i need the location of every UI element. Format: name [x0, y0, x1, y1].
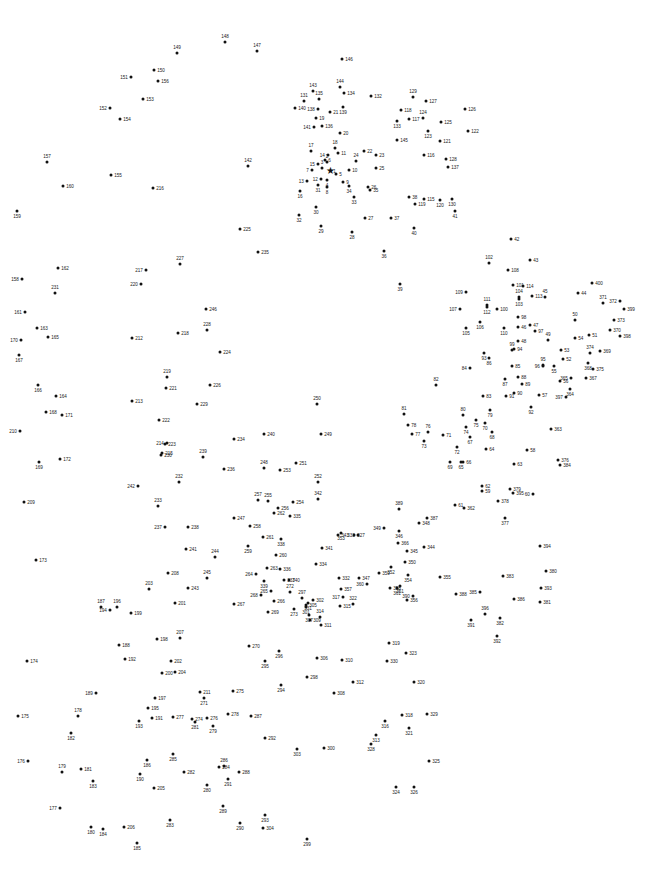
dot-number-label: 260	[279, 553, 287, 558]
puzzle-dot	[351, 231, 354, 234]
puzzle-dot	[227, 778, 230, 781]
dot-number-label: 7	[306, 168, 309, 173]
puzzle-dot	[454, 504, 457, 507]
puzzle-dot	[333, 692, 336, 695]
puzzle-dot	[130, 76, 133, 79]
dot-number-label: 136	[325, 124, 333, 129]
puzzle-dot	[532, 493, 535, 496]
dot-number-label: 47	[533, 323, 538, 328]
puzzle-dot	[176, 52, 179, 55]
puzzle-dot	[427, 431, 430, 434]
puzzle-dot	[327, 154, 330, 157]
puzzle-dot	[320, 225, 323, 228]
dot-number-label: 249	[324, 432, 332, 437]
puzzle-dot	[462, 461, 465, 464]
dot-number-label: 344	[427, 545, 435, 550]
puzzle-dot	[298, 214, 301, 217]
dot-number-label: 300	[327, 746, 335, 751]
puzzle-dot	[426, 517, 429, 520]
dot-number-label: 141	[303, 125, 311, 130]
puzzle-dot	[412, 96, 415, 99]
puzzle-dot	[80, 768, 83, 771]
dot-number-label: 63	[517, 462, 522, 467]
puzzle-dot	[247, 545, 250, 548]
dot-number-label: 171	[65, 413, 73, 418]
dot-number-label: 324	[392, 790, 400, 795]
dot-number-label: 306	[320, 656, 328, 661]
dot-number-label: 384	[563, 463, 571, 468]
puzzle-dot	[263, 467, 266, 470]
dot-number-label: 5	[339, 172, 342, 177]
dot-number-label: 166	[34, 388, 42, 393]
dot-number-label: 43	[533, 258, 538, 263]
puzzle-dot	[352, 603, 355, 606]
puzzle-dot	[530, 406, 533, 409]
puzzle-dot	[24, 311, 27, 314]
puzzle-dot	[288, 579, 291, 582]
puzzle-dot	[206, 784, 209, 787]
puzzle-dot	[619, 300, 622, 303]
puzzle-dot	[47, 336, 50, 339]
dot-number-label: 263	[270, 566, 278, 571]
puzzle-dot	[317, 108, 320, 111]
dot-number-label: 357	[344, 587, 352, 592]
puzzle-dot	[479, 321, 482, 324]
dot-number-label: 114	[526, 284, 533, 289]
dot-number-label: 361	[393, 591, 401, 596]
puzzle-dot	[353, 196, 356, 199]
dot-number-label: 223	[168, 442, 176, 447]
dot-number-label: 153	[146, 97, 154, 102]
dot-number-label: 304	[266, 826, 274, 831]
puzzle-dot	[442, 434, 445, 437]
dot-number-label: 90	[517, 391, 522, 396]
puzzle-dot	[411, 433, 414, 436]
puzzle-dot	[232, 690, 235, 693]
dot-number-label: 144	[336, 79, 344, 84]
puzzle-dot	[497, 500, 500, 503]
puzzle-dot	[249, 525, 252, 528]
puzzle-dot	[414, 203, 417, 206]
puzzle-dot	[469, 367, 472, 370]
puzzle-dot	[187, 587, 190, 590]
dot-number-label: 251	[299, 461, 307, 466]
puzzle-dot	[194, 721, 197, 724]
puzzle-dot	[403, 413, 406, 416]
dot-number-label: 341	[325, 546, 333, 551]
dot-number-label: 60	[525, 492, 530, 497]
puzzle-dot	[61, 414, 64, 417]
dot-number-label: 387	[430, 516, 438, 521]
puzzle-dot	[496, 308, 499, 311]
dot-number-label: 62	[485, 484, 490, 489]
puzzle-dot	[92, 780, 95, 783]
puzzle-dot	[312, 90, 315, 93]
dot-number-label: 195	[151, 706, 159, 711]
dot-number-label: 115	[427, 197, 434, 202]
puzzle-dot	[544, 296, 547, 299]
dot-number-label: 400	[595, 281, 603, 286]
puzzle-dot	[102, 828, 105, 831]
dot-number-label: 356	[410, 598, 418, 603]
dot-number-label: 394	[543, 544, 551, 549]
puzzle-dot	[589, 352, 592, 355]
puzzle-dot	[160, 454, 163, 457]
puzzle-dot	[447, 166, 450, 169]
puzzle-dot	[142, 98, 145, 101]
dot-number-label: 253	[283, 468, 291, 473]
dot-number-label: 80	[460, 407, 465, 412]
puzzle-dot	[138, 720, 141, 723]
dot-number-label: 216	[156, 186, 164, 191]
dot-number-label: 289	[219, 809, 227, 814]
dot-number-label: 230	[164, 453, 172, 458]
dot-number-label: 19	[319, 116, 324, 121]
puzzle-dot	[109, 107, 112, 110]
puzzle-dot	[139, 773, 142, 776]
puzzle-dot	[183, 771, 186, 774]
puzzle-dot	[152, 187, 155, 190]
dot-number-label: 50	[572, 312, 577, 317]
puzzle-dot	[592, 368, 595, 371]
connect-the-dots-canvas: ★123456789101112131415161718192021222324…	[0, 0, 671, 887]
puzzle-dot	[502, 575, 505, 578]
puzzle-dot	[338, 577, 341, 580]
puzzle-dot	[218, 766, 221, 769]
puzzle-dot	[275, 554, 278, 557]
